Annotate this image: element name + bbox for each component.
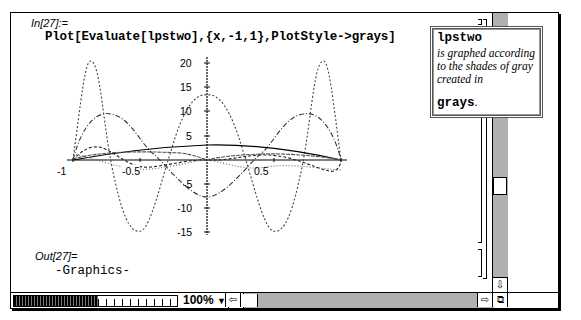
output-cell-bracket[interactable] <box>478 249 482 277</box>
x-tick: -1 <box>57 165 66 177</box>
output-label: Out[27]= <box>35 250 78 262</box>
y-tick: 10 <box>180 105 192 117</box>
y-tick: 5 <box>186 130 192 142</box>
status-bar: 100% ▼ ⇦ ⇨ ⧉ <box>11 292 558 308</box>
plot-graphic[interactable] <box>51 49 351 249</box>
y-tick: -10 <box>177 202 192 214</box>
annotation-tail-code: grays <box>437 96 475 110</box>
annotation-tail: grays. <box>437 95 478 110</box>
annotation-callout: lpstwo is graphed according to the shade… <box>430 26 543 118</box>
zoom-dropdown[interactable]: 100% ▼ <box>181 293 229 308</box>
annotation-body: is graphed according to the shades of gr… <box>437 47 539 86</box>
input-code[interactable]: Plot[Evaluate[lpstwo],{x,-1,1},PlotStyle… <box>45 30 395 44</box>
vertical-scroll-thumb[interactable] <box>493 177 507 195</box>
output-value: -Graphics- <box>55 264 130 278</box>
y-tick: 20 <box>180 57 192 69</box>
input-label: In[27]:= <box>31 17 68 29</box>
scroll-right-arrow-icon[interactable]: ⇨ <box>477 293 493 307</box>
x-tick: -0.5 <box>122 165 140 177</box>
annotation-title: lpstwo <box>437 31 482 45</box>
y-tick: -5 <box>183 178 192 190</box>
y-tick: 15 <box>180 81 192 93</box>
input-cell-bracket[interactable] <box>478 113 482 243</box>
zoom-value: 100% <box>183 293 214 307</box>
resize-grow-box-icon[interactable]: ⧉ <box>492 293 508 307</box>
y-tick: -15 <box>177 226 192 238</box>
horizontal-scrollbar[interactable] <box>243 293 494 308</box>
magnification-ruler[interactable] <box>13 295 178 307</box>
scroll-down-arrow-icon[interactable]: ⇩ <box>492 277 508 293</box>
cell-bracket[interactable] <box>478 19 482 25</box>
annotation-period: . <box>475 95 478 109</box>
scroll-left-arrow-icon[interactable]: ⇦ <box>225 293 241 307</box>
x-tick: 0.5 <box>254 165 269 177</box>
horizontal-scroll-thumb[interactable] <box>243 294 258 307</box>
